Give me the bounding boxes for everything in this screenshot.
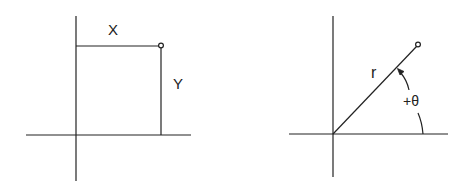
polar-point-marker: [416, 42, 421, 47]
cartesian-diagram: [26, 16, 191, 181]
radius-line: [333, 47, 417, 135]
theta-arrowhead-icon: [398, 69, 405, 76]
x-label: X: [108, 21, 118, 38]
cartesian-point-marker: [159, 43, 164, 48]
theta-label: +θ: [403, 93, 419, 109]
polar-diagram: [289, 16, 448, 177]
theta-arc-lower: [418, 113, 423, 134]
y-label: Y: [173, 75, 183, 92]
coordinate-systems-diagram: X Y r +θ: [0, 0, 471, 188]
theta-arc-upper: [400, 72, 409, 90]
r-label: r: [371, 64, 377, 81]
